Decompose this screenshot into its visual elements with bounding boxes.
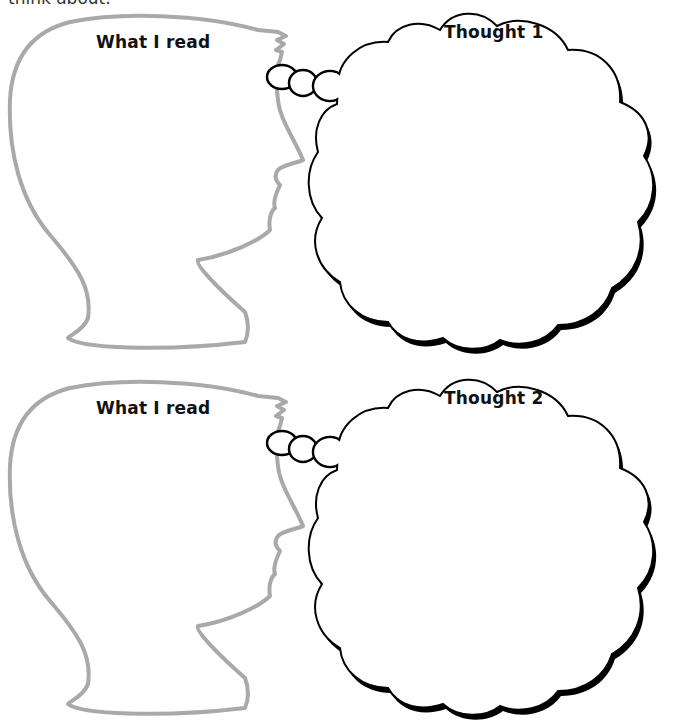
what-i-read-label: What I read [96,32,210,52]
head-outline-icon [10,16,303,348]
head-and-cloud-graphic [0,0,676,360]
head-outline-icon [10,382,303,714]
thought-1-label: Thought 1 [444,22,543,42]
thinking-panel-1: What I read Thought 1 [0,0,676,360]
what-i-read-label: What I read [96,398,210,418]
thinking-panel-2: What I read Thought 2 [0,366,676,726]
thought-2-label: Thought 2 [444,388,543,408]
head-and-cloud-graphic [0,366,676,726]
thought-cloud-icon [309,380,653,715]
thought-cloud-icon [309,14,653,349]
